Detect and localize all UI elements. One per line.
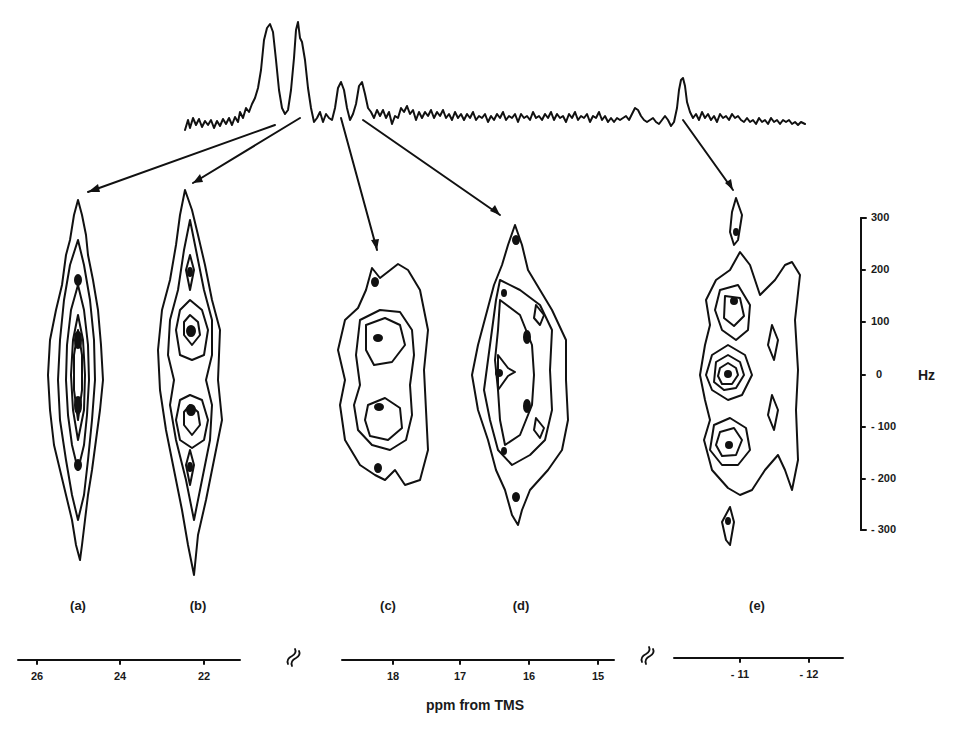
top-spectrum-trace <box>185 22 805 130</box>
hz-tick: 0 <box>876 368 882 380</box>
hz-tick: - 100 <box>871 420 896 432</box>
ppm-tick: 16 <box>523 670 535 682</box>
nmr-figure <box>0 0 969 738</box>
contour-panel-a <box>48 200 103 560</box>
ppm-tick: 24 <box>114 670 126 682</box>
hz-tick: - 300 <box>871 523 896 535</box>
ppm-tick: 15 <box>592 670 604 682</box>
contour-panel-c <box>338 264 428 485</box>
hz-tick: 300 <box>871 211 889 223</box>
contour-panel-b <box>158 190 222 575</box>
panel-label-b: (b) <box>190 598 207 613</box>
panel-label-a: (a) <box>70 598 86 613</box>
hz-unit-label: Hz <box>918 367 935 383</box>
pointer-arrows <box>88 118 733 250</box>
panel-label-c: (c) <box>380 598 396 613</box>
hz-tick: 100 <box>871 315 889 327</box>
contour-panel-e <box>700 198 800 545</box>
panel-label-e: (e) <box>749 598 765 613</box>
ppm-tick: - 12 <box>800 668 819 680</box>
ppm-tick: 17 <box>454 670 466 682</box>
hz-axis <box>861 218 866 530</box>
contour-panel-d <box>472 225 568 525</box>
hz-tick: - 200 <box>871 472 896 484</box>
ppm-axis <box>18 658 843 664</box>
ppm-tick: 26 <box>31 670 43 682</box>
ppm-tick: - 11 <box>731 668 749 680</box>
ppm-tick: 18 <box>387 670 399 682</box>
panel-label-d: (d) <box>513 598 530 613</box>
hz-tick: 200 <box>871 263 889 275</box>
ppm-tick: 22 <box>198 670 210 682</box>
x-axis-title: ppm from TMS <box>426 697 524 713</box>
